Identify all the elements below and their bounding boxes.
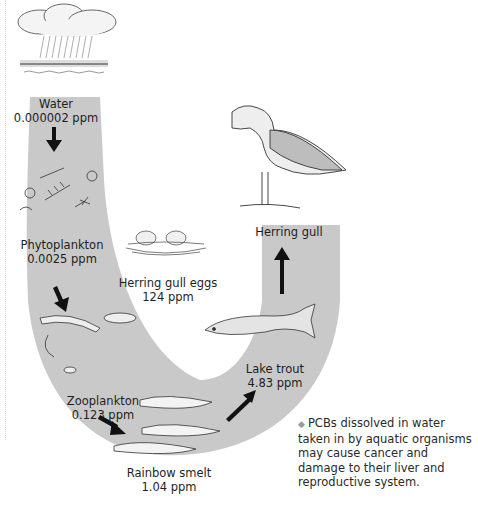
- note-text: PCBs dissolved in water taken in by aqua…: [298, 416, 472, 489]
- pcb-note: ◆PCBs dissolved in water taken in by aqu…: [298, 416, 476, 490]
- water-label: Water 0.000002 ppm: [8, 97, 104, 125]
- rainbow-smelt-label: Rainbow smelt 1.04 ppm: [124, 466, 214, 494]
- gull-eggs-nest-icon: [126, 231, 206, 255]
- stage-name: Lake trout: [238, 362, 312, 376]
- stage-name: Water: [8, 97, 104, 111]
- herring-gull-eggs-label: Herring gull eggs 124 ppm: [118, 276, 218, 304]
- stage-name: Herring gull: [246, 225, 332, 239]
- herring-gull-icon: [232, 106, 346, 208]
- item-concentration: 124 ppm: [118, 290, 218, 304]
- stage-name: Rainbow smelt: [124, 466, 214, 480]
- phytoplankton-label: Phytoplankton 0.0025 ppm: [14, 238, 110, 266]
- item-name: Herring gull eggs: [118, 276, 218, 290]
- stage-concentration: 0.123 ppm: [60, 408, 146, 422]
- rain-cloud-icon: [18, 4, 116, 58]
- stage-concentration: 0.0025 ppm: [14, 252, 110, 266]
- stage-concentration: 0.000002 ppm: [8, 111, 104, 125]
- stage-name: Phytoplankton: [14, 238, 110, 252]
- herring-gull-label: Herring gull: [246, 225, 332, 239]
- zooplankton-label: Zooplankton 0.123 ppm: [60, 394, 146, 422]
- stage-concentration: 1.04 ppm: [124, 480, 214, 494]
- lake-trout-label: Lake trout 4.83 ppm: [238, 362, 312, 390]
- stage-name: Zooplankton: [60, 394, 146, 408]
- water-surface-icon: [20, 60, 108, 73]
- diamond-bullet-icon: ◆: [298, 419, 305, 429]
- stage-concentration: 4.83 ppm: [238, 376, 312, 390]
